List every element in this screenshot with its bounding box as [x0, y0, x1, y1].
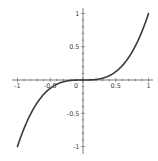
- y-tick-label: 0.5: [69, 43, 79, 51]
- x-tick-label: -1: [14, 82, 20, 90]
- x-tick-label: 0.5: [111, 82, 121, 90]
- y-tick-label: 1: [75, 10, 79, 18]
- y-tick-label: -0.5: [67, 110, 80, 118]
- x-tick-label: 1: [146, 82, 150, 90]
- x-axis-tick-labels: -1-0.500.51: [14, 82, 150, 90]
- y-tick-label: -1: [73, 143, 79, 151]
- x-tick-label: 0: [74, 82, 78, 90]
- cubic-function-plot: -1-0.500.51 -1-0.50.51: [0, 0, 158, 161]
- axes: [12, 8, 153, 154]
